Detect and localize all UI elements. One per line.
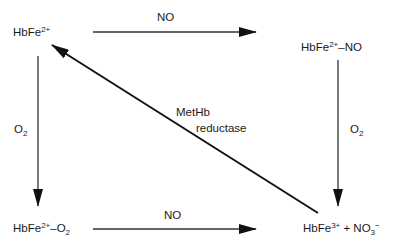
node-hbfe2-no: HbFe2+–NO xyxy=(301,41,362,54)
node-hbfe2-o2: HbFe2+–O2 xyxy=(13,222,70,237)
label-top-no: NO xyxy=(157,12,174,24)
node-hbfe3-no3: HbFe3+ + NO3− xyxy=(303,222,380,237)
node-hbfe2-top-left: HbFe2+ xyxy=(13,26,50,39)
label-reductase: reductase xyxy=(196,123,247,135)
label-right-o2: O2 xyxy=(350,124,363,138)
label-left-o2: O2 xyxy=(14,124,27,138)
label-bottom-no: NO xyxy=(164,210,181,222)
arrow-diagonal-methb-reductase xyxy=(52,45,318,213)
label-methb: MetHb xyxy=(176,107,210,119)
